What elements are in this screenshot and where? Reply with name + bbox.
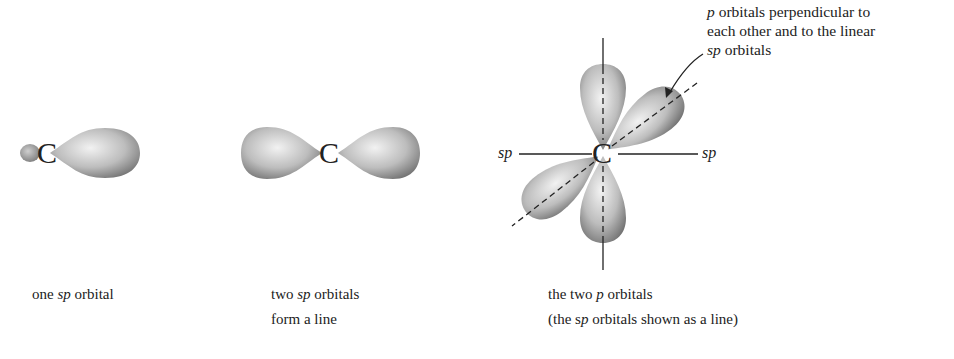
callout-arrow-line bbox=[670, 54, 703, 92]
caption-text: orbitals shown as a line) bbox=[588, 311, 738, 327]
carbon-atom-1: C bbox=[37, 138, 57, 168]
caption-text: one bbox=[32, 286, 57, 302]
sp-orbital-lobe-right bbox=[338, 127, 420, 179]
caption-text: the two bbox=[548, 286, 596, 302]
carbon-atom-3: C bbox=[592, 138, 612, 168]
callout-sp-italic: sp bbox=[707, 41, 721, 58]
callout-line1: orbitals perpendicular to bbox=[715, 3, 870, 20]
sp-axis-label-right: sp bbox=[702, 144, 716, 162]
caption-two-p-orbitals: the two p orbitals (the sp orbitals show… bbox=[548, 283, 738, 330]
caption-text: two bbox=[271, 286, 297, 302]
carbon-atom-2: C bbox=[319, 138, 339, 168]
sp-axis-label-left: sp bbox=[498, 144, 512, 162]
caption-text: orbitals bbox=[604, 286, 653, 302]
caption-two-sp-orbitals: two sp orbitals form a line bbox=[271, 283, 359, 330]
callout-line3: orbitals bbox=[721, 41, 771, 58]
callout-line2: each other and to the linear bbox=[707, 21, 875, 40]
caption-italic: sp bbox=[297, 286, 310, 302]
caption-italic: p bbox=[596, 286, 604, 302]
caption-line2: form a line bbox=[271, 308, 359, 330]
callout-p-italic: p bbox=[707, 3, 715, 20]
sp-orbital-lobe-left bbox=[241, 127, 322, 179]
p-orbitals-callout: p orbitals perpendicular to each other a… bbox=[707, 2, 875, 59]
caption-one-sp-orbital: one sp orbital bbox=[32, 283, 114, 305]
sp-orbital-lobe bbox=[50, 128, 140, 178]
caption-text: orbital bbox=[71, 286, 114, 302]
caption-text: orbitals bbox=[311, 286, 360, 302]
caption-text: (the s bbox=[548, 311, 581, 327]
caption-italic: sp bbox=[57, 286, 70, 302]
